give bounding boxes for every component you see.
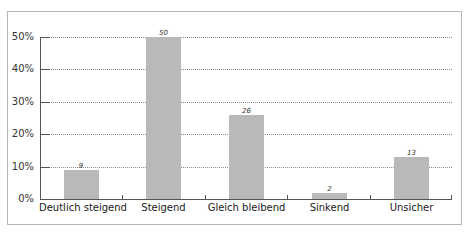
y-tick	[40, 102, 50, 103]
value-label: 13	[394, 149, 429, 157]
bar-steigend	[146, 37, 181, 199]
y-tick-label: 40%	[4, 64, 34, 74]
x-tick	[451, 195, 452, 200]
x-category-label: Gleich bleibend	[205, 202, 289, 213]
x-category-label: Steigend	[122, 202, 206, 213]
value-label: 9	[64, 162, 99, 170]
gridline-40	[40, 69, 452, 70]
x-axis	[40, 199, 452, 200]
bar-chart: 0% 10% 20% 30% 40% 50% 9 50 26 2 13 Deut…	[40, 37, 452, 199]
bar-unsicher	[394, 157, 429, 199]
y-tick	[40, 69, 50, 70]
bar-sinkend	[312, 193, 347, 199]
value-label: 2	[312, 185, 347, 193]
bar-gleich-bleibend	[229, 115, 264, 199]
y-axis	[40, 37, 41, 199]
x-category-label: Deutlich steigend	[39, 202, 123, 213]
y-tick-label: 20%	[4, 129, 34, 139]
bar-deutlich-steigend	[64, 170, 99, 199]
y-tick-label: 10%	[4, 162, 34, 172]
y-tick-label: 30%	[4, 97, 34, 107]
value-label: 50	[146, 29, 181, 37]
x-tick	[205, 195, 206, 200]
x-tick	[370, 195, 371, 200]
gridline-30	[40, 102, 452, 103]
y-tick-label: 50%	[4, 32, 34, 42]
x-tick	[287, 195, 288, 200]
y-tick	[40, 37, 50, 38]
y-tick-label: 0%	[4, 194, 34, 204]
gridline-50	[40, 37, 452, 38]
x-category-label: Sinkend	[288, 202, 372, 213]
x-category-label: Unsicher	[370, 202, 454, 213]
x-tick	[122, 195, 123, 200]
value-label: 26	[229, 107, 264, 115]
y-tick	[40, 167, 50, 168]
y-tick	[40, 134, 50, 135]
